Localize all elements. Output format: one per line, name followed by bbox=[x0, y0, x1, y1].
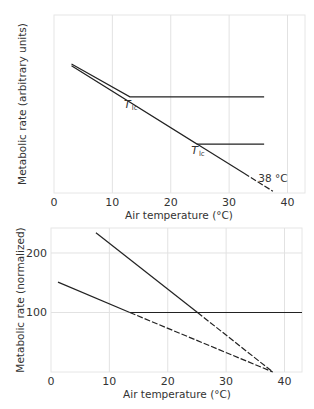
top-annotations: TlcTlc38 °C bbox=[124, 98, 288, 185]
top-x-axis-label: Air temperature (°C) bbox=[125, 209, 233, 221]
bottom-chart: 010203040 100200 Air temperature (°C) Me… bbox=[14, 227, 302, 400]
x-tick-label: 0 bbox=[51, 196, 58, 209]
series-line-animal-2 bbox=[72, 66, 265, 144]
y-tick-label: 100 bbox=[26, 306, 47, 319]
annotation-label: Tlc bbox=[124, 98, 138, 112]
annotation-label: 38 °C bbox=[258, 172, 287, 184]
annotation-label: Tlc bbox=[191, 144, 205, 158]
x-tick-label: 30 bbox=[222, 196, 236, 209]
top-chart: 010203040 TlcTlc38 °C Air temperature (°… bbox=[16, 15, 305, 221]
bottom-y-ticks: 100200 bbox=[26, 247, 47, 320]
x-tick-label: 0 bbox=[48, 375, 55, 388]
y-tick-label: 200 bbox=[26, 247, 47, 260]
x-tick-label: 10 bbox=[102, 375, 116, 388]
x-tick-label: 10 bbox=[105, 196, 119, 209]
top-series bbox=[72, 64, 273, 191]
top-x-ticks: 010203040 bbox=[51, 196, 295, 209]
series-line-animal-2-extrapolation bbox=[197, 144, 244, 173]
plot-frame bbox=[54, 15, 305, 193]
bottom-series bbox=[58, 233, 302, 372]
series-line-steep-solid bbox=[96, 233, 198, 313]
bottom-grid bbox=[51, 228, 302, 372]
plot-frame bbox=[51, 228, 302, 372]
x-tick-label: 40 bbox=[277, 375, 291, 388]
series-line-shallow-solid bbox=[58, 282, 130, 312]
top-grid bbox=[54, 15, 305, 193]
bottom-x-ticks: 010203040 bbox=[48, 375, 292, 388]
bottom-x-axis-label: Air temperature (°C) bbox=[123, 388, 231, 400]
top-y-axis-label: Metabolic rate (arbitrary units) bbox=[16, 23, 28, 185]
series-line-steep-extrapolation bbox=[198, 312, 273, 372]
x-tick-label: 20 bbox=[164, 196, 178, 209]
x-tick-label: 30 bbox=[219, 375, 233, 388]
bottom-y-axis-label: Metabolic rate (normalized) bbox=[14, 227, 26, 372]
series-line-shallow-extrapolation bbox=[130, 312, 273, 372]
figure: 010203040 TlcTlc38 °C Air temperature (°… bbox=[0, 0, 314, 409]
x-tick-label: 40 bbox=[280, 196, 294, 209]
x-tick-label: 20 bbox=[161, 375, 175, 388]
series-line-animal-1 bbox=[72, 64, 265, 97]
